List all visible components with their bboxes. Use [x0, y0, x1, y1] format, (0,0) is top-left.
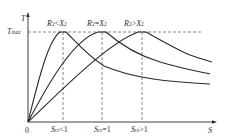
tmax-label: Tmax: [7, 28, 21, 36]
curve-r2-eq-x2: [28, 32, 210, 122]
annotation-r2-eq-x2: R2=X2: [87, 20, 107, 28]
s-axis-label: S: [208, 127, 212, 135]
tmax-sub: max: [11, 29, 20, 35]
x-axis-arrow-icon: [212, 120, 217, 123]
curve-r2-lt-x2: [28, 32, 210, 122]
annotation-r2-gt-x2: R2>X2: [124, 20, 144, 28]
t-axis-label: T: [21, 15, 25, 23]
origin-label: 0: [25, 127, 29, 135]
torque-slip-chart: [0, 0, 226, 140]
tick-scr-gt1: Scr>1: [131, 126, 148, 134]
curve-r2-gt-x2: [28, 32, 212, 122]
tick-scr-lt1: Scr<1: [51, 126, 68, 134]
y-axis-arrow-icon: [26, 12, 29, 17]
annotation-r2-lt-x2: R2<X2: [47, 20, 67, 28]
tick-scr-eq1: Scr=1: [94, 126, 111, 134]
